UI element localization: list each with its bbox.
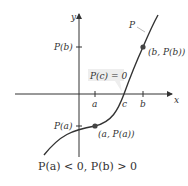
ivt-diagram: x y a c b P(b) P(a) (a, P(a)) (b, P(b)) … xyxy=(0,0,188,186)
tick-label-c: c xyxy=(122,99,127,109)
tick-label-pa: P(a) xyxy=(53,121,73,131)
curve-label: P xyxy=(128,20,136,30)
caption: P(a) < 0, P(b) > 0 xyxy=(38,160,137,173)
callout-pointer xyxy=(115,81,122,92)
point-b xyxy=(140,44,145,49)
x-axis-label: x xyxy=(174,95,179,105)
tick-label-pb: P(b) xyxy=(53,42,73,52)
point-b-label: (b, P(b)) xyxy=(148,47,186,57)
tick-label-b: b xyxy=(140,99,146,109)
point-a xyxy=(92,123,97,128)
y-axis-label: y xyxy=(70,12,77,22)
callout-text: P(c) = 0 xyxy=(89,71,127,81)
tick-label-a: a xyxy=(92,99,97,109)
curve-label-leader xyxy=(137,27,145,32)
point-a-label: (a, P(a)) xyxy=(98,129,135,139)
